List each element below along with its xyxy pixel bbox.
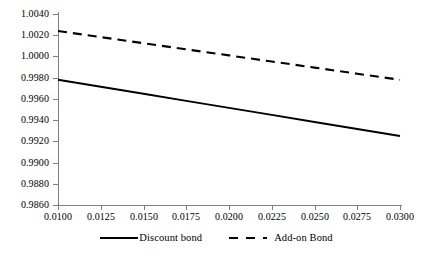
legend-label: Discount bond [139,232,202,244]
legend-swatch-dashed [228,233,268,243]
series-line-discount-bond [58,80,400,136]
legend-label: Add-on Bond [274,232,333,244]
line-chart: 1.00401.00201.00000.99800.99600.99400.99… [0,0,432,260]
series-line-add-on-bond [58,31,400,80]
chart-legend: Discount bondAdd-on Bond [0,232,432,244]
legend-entry[interactable]: Discount bond [99,232,202,244]
legend-entry[interactable]: Add-on Bond [228,232,333,244]
legend-swatch-solid [99,233,139,243]
series-lines [0,0,432,260]
